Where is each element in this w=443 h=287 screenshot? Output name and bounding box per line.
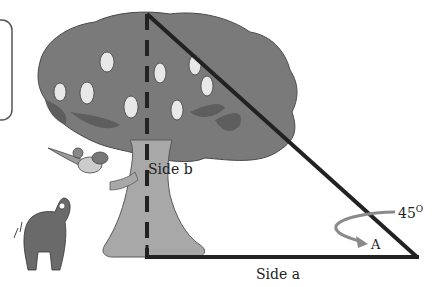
cropped-callout-box xyxy=(0,20,12,120)
pear xyxy=(154,63,166,83)
angle-name-label: A xyxy=(370,237,381,252)
side-a-label: Side a xyxy=(256,266,300,282)
pear xyxy=(54,83,66,101)
bird xyxy=(48,148,108,173)
angle-value-label: 45O xyxy=(398,204,423,221)
diagram: Side b Side a 45O A xyxy=(0,0,443,287)
pear xyxy=(171,100,183,120)
degree-symbol: O xyxy=(416,204,423,214)
side-b-label: Side b xyxy=(148,161,193,177)
pear xyxy=(201,76,213,96)
pear xyxy=(80,82,94,104)
angle-value: 45 xyxy=(398,205,416,221)
pear xyxy=(100,52,114,72)
pear xyxy=(124,96,138,118)
triangle-tree-diagram: Side b Side a 45O A xyxy=(0,0,443,287)
dog xyxy=(14,198,70,270)
arrowhead-icon xyxy=(356,236,368,248)
